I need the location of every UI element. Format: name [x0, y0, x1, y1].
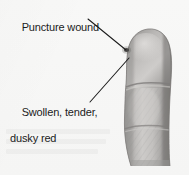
swollen-label-line-2: dusky red — [10, 132, 98, 145]
puncture-wound-label-text: Puncture wound — [22, 21, 99, 33]
swollen-tender-dusky-red-label: Swollen, tender, dusky red — [10, 93, 98, 171]
swollen-label-line-1: Swollen, tender, — [22, 106, 98, 118]
puncture-wound-mark — [122, 46, 131, 54]
puncture-wound-label: Puncture wound — [10, 8, 99, 47]
medical-illustration-figure: Puncture wound Swollen, tender, dusky re… — [0, 0, 189, 175]
